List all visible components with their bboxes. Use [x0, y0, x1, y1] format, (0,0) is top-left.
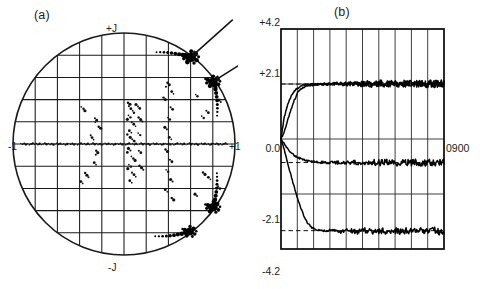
convergence-grid — [281, 29, 444, 249]
trace-annotation-0900: 0900 — [446, 142, 469, 154]
ytick-label-lower: -2.1 — [242, 213, 280, 225]
panel-b-caption: (b) — [334, 5, 350, 19]
ytick-label-top: +4.2 — [242, 16, 280, 28]
ytick-label-bottom: -4.2 — [242, 265, 280, 277]
convergence-plot-area — [280, 28, 445, 250]
constellation-plot-area — [10, 18, 238, 270]
panel-a-constellation: (a) +J -J -1 +1 — [0, 0, 250, 289]
constellation-svg — [10, 18, 238, 270]
constellation-arrows — [192, 20, 238, 81]
ytick-label-middle: 0.0 — [242, 142, 280, 154]
figure-root: (a) +J -J -1 +1 (b) +4.2 +2.1 — [0, 0, 491, 289]
ytick-label-upper: +2.1 — [242, 67, 280, 79]
convergence-svg — [280, 28, 445, 250]
panel-b-convergence: (b) +4.2 +2.1 0.0 -2.1 -4.2 0900 — [250, 0, 491, 289]
